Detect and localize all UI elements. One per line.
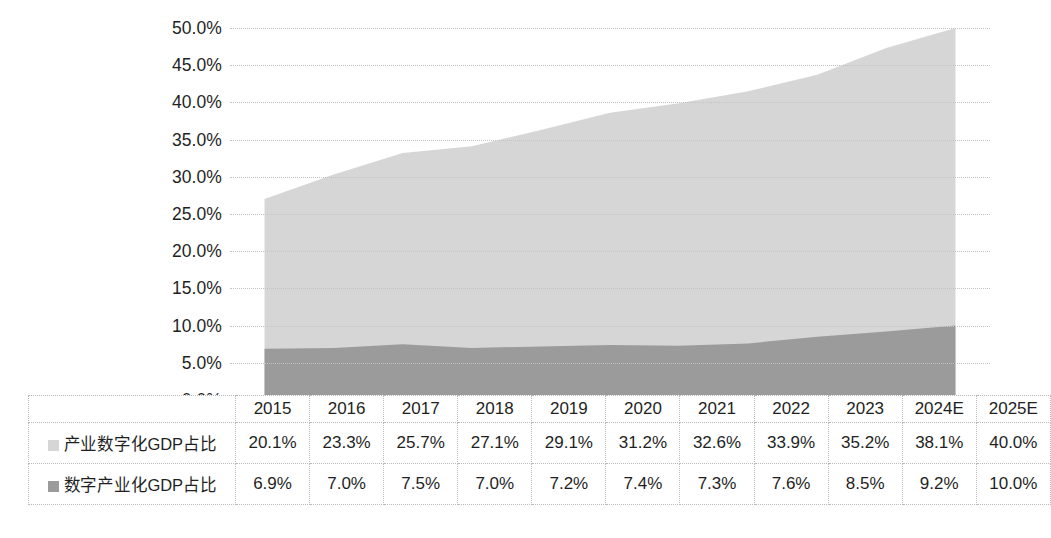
gridline: [230, 102, 990, 103]
table-data-cell: 8.5%: [828, 464, 902, 505]
gridline: [230, 65, 990, 66]
table-data-cell: 35.2%: [828, 423, 902, 464]
y-axis-tick-label: 5.0%: [182, 352, 222, 373]
y-axis-tick-label: 20.0%: [172, 241, 222, 262]
table-header-cell: 2023: [828, 396, 902, 423]
table-data-cell: 10.0%: [976, 464, 1050, 505]
legend-swatch-icon: [48, 440, 59, 451]
table-row: 数字产业化GDP占比6.9%7.0%7.5%7.0%7.2%7.4%7.3%7.…: [29, 464, 1051, 505]
table-data-cell: 32.6%: [680, 423, 754, 464]
gridline: [230, 326, 990, 327]
gridline: [230, 177, 990, 178]
gridline: [230, 363, 990, 364]
gridline: [230, 214, 990, 215]
table-header-row: 2015201620172018201920202021202220232024…: [29, 396, 1051, 423]
y-axis-tick-label: 35.0%: [172, 129, 222, 150]
y-axis-tick-label: 15.0%: [172, 278, 222, 299]
series-name-text: 产业数字化GDP占比: [64, 435, 217, 453]
table-data-cell: 23.3%: [310, 423, 384, 464]
y-axis: 0.0%5.0%10.0%15.0%20.0%25.0%30.0%35.0%40…: [120, 28, 230, 400]
gridline: [230, 251, 990, 252]
y-axis-tick-label: 30.0%: [172, 166, 222, 187]
table-data-cell: 7.3%: [680, 464, 754, 505]
gridline: [230, 28, 990, 29]
gridline: [230, 288, 990, 289]
data-table-body: 2015201620172018201920202021202220232024…: [29, 396, 1051, 505]
table-data-cell: 29.1%: [532, 423, 606, 464]
data-table: 2015201620172018201920202021202220232024…: [28, 395, 1051, 505]
table-data-cell: 40.0%: [976, 423, 1050, 464]
table-data-cell: 7.5%: [384, 464, 458, 505]
series-name-text: 数字产业化GDP占比: [64, 476, 217, 494]
table-data-cell: 7.6%: [754, 464, 828, 505]
table-data-cell: 38.1%: [902, 423, 976, 464]
table-data-cell: 7.4%: [606, 464, 680, 505]
table-data-cell: 7.0%: [458, 464, 532, 505]
table-header-cell: 2024E: [902, 396, 976, 423]
table-header-cell: 2020: [606, 396, 680, 423]
table-header-cell: 2016: [310, 396, 384, 423]
table-data-cell: 25.7%: [384, 423, 458, 464]
y-axis-tick-label: 50.0%: [172, 18, 222, 39]
y-axis-tick-label: 40.0%: [172, 92, 222, 113]
table-data-cell: 7.0%: [310, 464, 384, 505]
gridline: [230, 140, 990, 141]
series-legend-label: 数字产业化GDP占比: [29, 464, 236, 505]
table-header-cell: 2025E: [976, 396, 1050, 423]
legend-swatch-icon: [48, 481, 59, 492]
series-legend-label: 产业数字化GDP占比: [29, 423, 236, 464]
table-header-cell: 2015: [236, 396, 310, 423]
table-header-cell: 2018: [458, 396, 532, 423]
table-data-cell: 9.2%: [902, 464, 976, 505]
plot-area: [230, 28, 990, 400]
data-table-container: 2015201620172018201920202021202220232024…: [28, 395, 990, 501]
table-data-cell: 27.1%: [458, 423, 532, 464]
table-row: 产业数字化GDP占比20.1%23.3%25.7%27.1%29.1%31.2%…: [29, 423, 1051, 464]
table-header-cell: 2022: [754, 396, 828, 423]
table-header-cell: 2017: [384, 396, 458, 423]
table-data-cell: 31.2%: [606, 423, 680, 464]
table-header-cell: 2021: [680, 396, 754, 423]
y-axis-tick-label: 25.0%: [172, 204, 222, 225]
y-axis-tick-label: 10.0%: [172, 315, 222, 336]
table-data-cell: 33.9%: [754, 423, 828, 464]
table-data-cell: 6.9%: [236, 464, 310, 505]
table-data-cell: 20.1%: [236, 423, 310, 464]
y-axis-tick-label: 45.0%: [172, 55, 222, 76]
table-data-cell: 7.2%: [532, 464, 606, 505]
table-header-cell: 2019: [532, 396, 606, 423]
table-corner-cell: [29, 396, 236, 423]
